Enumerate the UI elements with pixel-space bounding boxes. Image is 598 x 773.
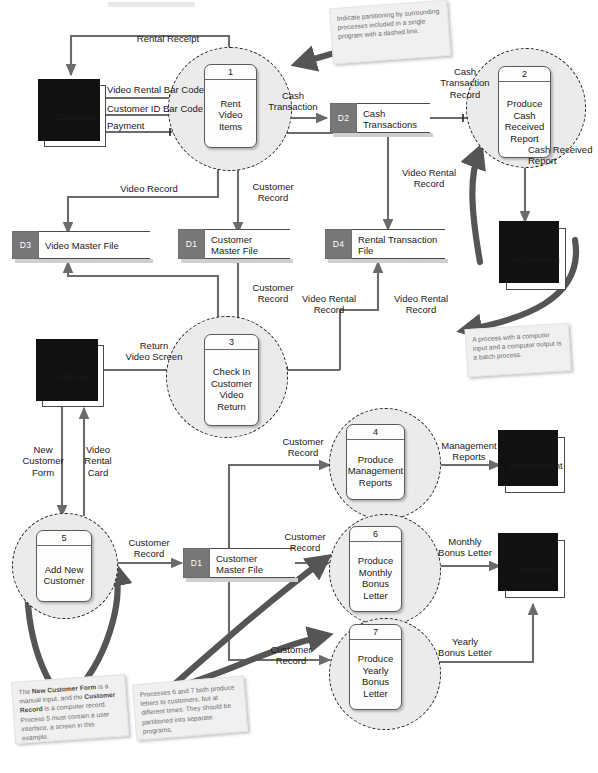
flow-label-new-customer-form: New Customer Form — [12, 444, 74, 478]
flow-label-customer-record-1: Customer Record — [240, 181, 306, 204]
store-shadow — [15, 259, 153, 263]
flow-label-monthly-bonus-letter: Monthly Bonus Letter — [424, 536, 506, 559]
store-id: D1 — [183, 548, 210, 578]
top-gray-bar — [108, 2, 195, 7]
flow-label-cash-received-report: Cash Received Report — [528, 144, 592, 167]
process-label: Produce Monthly Bonus Letter — [350, 542, 401, 615]
flow-label-customer-record-4: Customer Record — [270, 436, 336, 459]
process-5-add-new-customer[interactable]: 5 Add New Customer — [36, 530, 92, 602]
flow-label-cash-transaction-record: Cash Transaction Record — [432, 66, 498, 100]
store-label: Cash Transactions — [357, 103, 430, 133]
process-number: 2 — [499, 67, 550, 82]
process-7-produce-yearly-bonus-letter[interactable]: 7 Produce Yearly Bonus Letter — [349, 624, 402, 710]
flow-label-return-video-screen: Return Video Screen — [106, 340, 202, 363]
flow-label-management-reports: Management Reports — [430, 440, 508, 463]
process-label: Add New Customer — [37, 546, 91, 605]
process-label: Check In Customer Video Return — [205, 350, 258, 429]
process-number: 3 — [205, 335, 258, 350]
note-text-pre: The — [18, 688, 32, 696]
store-label: Video Master File — [39, 231, 150, 259]
entity-label: Customer — [514, 564, 555, 575]
entity-label: Customer — [54, 111, 95, 122]
store-shadow — [181, 259, 293, 263]
flow-label-video-rental-record-3: Video Rental Record — [384, 293, 458, 316]
flow-label-payment: Payment — [107, 120, 145, 131]
process-6-produce-monthly-bonus-letter[interactable]: 6 Produce Monthly Bonus Letter — [349, 526, 402, 612]
flow-label-customer-record-6: Customer Record — [258, 644, 324, 667]
process-3-check-in-customer-video-return[interactable]: 3 Check In Customer Video Return — [204, 334, 259, 426]
flow-label-video-record: Video Record — [84, 183, 214, 194]
entity-management: Management — [505, 437, 565, 493]
entity-customer-bottom: Customer — [505, 540, 565, 598]
flow-label-video-rental-bar-code: Video Rental Bar Code — [107, 84, 204, 95]
flow-label-customer-id-bar-code: Customer ID Bar Code — [107, 103, 203, 114]
flow-label-cash-transaction: Cash Transaction — [258, 90, 328, 113]
process-label: Rent Video Items — [205, 80, 256, 151]
process-number: 6 — [350, 527, 401, 542]
entity-accounting: Accounting — [506, 228, 566, 290]
store-label: Customer Master File — [205, 229, 290, 259]
entity-customer-top: Customer — [44, 85, 106, 147]
flow-label-video-rental-record-1: Video Rental Record — [392, 167, 466, 190]
store-id: D2 — [330, 103, 357, 133]
note-partitioning: Indicate partitioning by surrounding pro… — [329, 0, 451, 64]
process-4-produce-management-reports[interactable]: 4 Produce Management Reports — [346, 424, 405, 500]
data-store-d1-customer-master-file-top[interactable]: D1 Customer Master File — [178, 229, 290, 259]
entity-label: Management — [507, 460, 562, 471]
note-batch-process: A process with a computer input and a co… — [465, 323, 572, 377]
flow-label-yearly-bonus-letter: Yearly Bonus Letter — [424, 636, 506, 659]
process-number: 5 — [37, 531, 91, 546]
process-number: 4 — [347, 425, 404, 440]
store-id: D3 — [12, 231, 39, 259]
data-store-d2-cash-transactions[interactable]: D2 Cash Transactions — [330, 103, 430, 133]
store-shadow — [333, 133, 433, 137]
entity-label: Accounting — [512, 254, 559, 265]
store-shadow — [186, 578, 298, 582]
process-number: 1 — [205, 65, 256, 80]
flow-label-video-rental-record-2: Video Rental Record — [292, 293, 366, 316]
store-id: D4 — [325, 229, 352, 259]
entity-label: Customer — [52, 371, 93, 382]
data-store-d3-video-master-file[interactable]: D3 Video Master File — [12, 231, 150, 259]
data-store-d4-rental-transaction-file[interactable]: D4 Rental Transaction File — [325, 229, 445, 259]
process-1-rent-video-items[interactable]: 1 Rent Video Items — [204, 64, 257, 148]
process-label: Produce Yearly Bonus Letter — [350, 640, 401, 713]
flow-label-customer-record-5: Customer Record — [272, 531, 338, 554]
process-label: Produce Management Reports — [347, 440, 404, 503]
note-new-customer-form: The New Customer Form is a manual input,… — [11, 674, 129, 744]
store-shadow — [328, 259, 448, 263]
store-id: D1 — [178, 229, 205, 259]
process-number: 7 — [350, 625, 401, 640]
flow-label-customer-record-3: Customer Record — [115, 537, 183, 560]
dfd-canvas: Customer Customer Accounting Management … — [0, 0, 598, 773]
store-label: Rental Transaction File — [352, 229, 445, 259]
flow-label-rental-receipt: Rental Receipt — [98, 33, 238, 44]
entity-customer-mid: Customer — [42, 345, 104, 407]
flow-label-video-rental-card: Video Rental Card — [76, 444, 120, 478]
note-processes-6-7: Processes 6 and 7 both produce letters t… — [132, 676, 248, 741]
